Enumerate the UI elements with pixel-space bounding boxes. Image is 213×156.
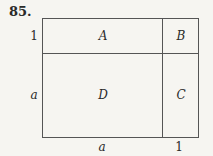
- problem-number: 85.: [9, 4, 32, 19]
- region-c-label: C: [176, 88, 185, 102]
- bottom-side-label-left: a: [98, 140, 105, 154]
- vertical-divider: [162, 18, 163, 138]
- region-d-label: D: [98, 88, 108, 102]
- region-a-label: A: [99, 29, 108, 43]
- horizontal-divider: [42, 53, 199, 54]
- left-side-label-top: 1: [30, 29, 38, 43]
- outer-rectangle: [42, 18, 199, 138]
- bottom-side-label-right: 1: [175, 140, 183, 154]
- left-side-label-bottom: a: [30, 88, 37, 102]
- region-b-label: B: [177, 29, 186, 43]
